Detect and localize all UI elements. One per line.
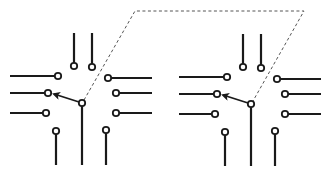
pin-layout-left [10, 33, 152, 165]
pin-layout-right [179, 34, 321, 166]
dashed-connector [84, 11, 304, 101]
diagram-canvas [0, 0, 329, 173]
